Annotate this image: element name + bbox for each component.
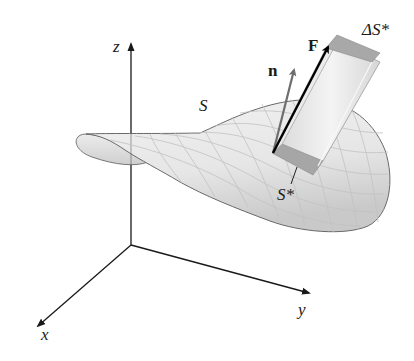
x-axis — [38, 245, 131, 326]
surface-label: S — [199, 97, 208, 114]
flux-diagram: z x y S n F ΔS* S* — [0, 0, 414, 361]
z-axis-label: z — [113, 38, 120, 55]
prism-label: ΔS* — [362, 21, 389, 38]
field-label: F — [308, 37, 318, 54]
y-axis — [131, 245, 309, 293]
normal-label: n — [268, 62, 277, 79]
x-axis-label: x — [41, 326, 49, 343]
patch-label: S* — [277, 186, 294, 203]
diagram-canvas — [0, 0, 414, 361]
y-axis-label: y — [298, 301, 306, 318]
